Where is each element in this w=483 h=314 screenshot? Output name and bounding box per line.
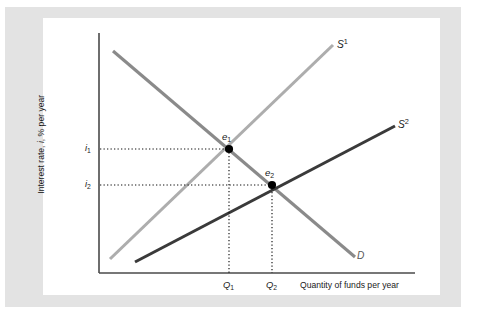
y-tick-label-i1: i1 [85,143,91,155]
x-tick-q2-subscript: 2 [273,284,277,291]
equilibrium-label-e1-subscript: 1 [227,136,231,143]
equilibrium-point-e2 [268,181,276,189]
y-axis-title-prefix: Interest rate, [36,143,46,194]
y-axis-title: Interest rate, i, % per year [37,59,46,229]
x-axis-title: Quantity of funds per year [300,281,399,290]
x-tick-q1-subscript: 1 [230,284,234,291]
equilibrium-label-e2-subscript: 2 [270,172,274,179]
curve-label-d: D [357,251,364,261]
y-tick-i2-subscript: 2 [87,183,91,190]
figure-root: Interest rate, i, % per year Quantity of… [0,0,483,314]
curve-label-s1-base: S [337,39,344,50]
equilibrium-label-e1: e1 [222,132,231,144]
x-tick-label-q1: Q1 [223,280,234,292]
equilibrium-point-e1 [225,145,233,153]
curve-label-s1: S1 [337,38,348,50]
equilibrium-label-e2: e2 [265,168,274,180]
curve-label-s2: S2 [398,118,409,130]
x-tick-label-q2: Q2 [266,280,277,292]
supply-curve-2 [135,126,395,262]
y-tick-i1-subscript: 1 [87,147,91,154]
y-axis-title-suffix: , % per year [36,95,46,141]
plot-canvas [0,0,483,314]
curve-label-s2-superscript: 2 [405,117,409,126]
y-axis-title-variable: i [36,141,46,143]
y-tick-label-i2: i2 [85,179,91,191]
curve-label-s1-superscript: 1 [344,37,348,46]
curve-label-s2-base: S [398,119,405,130]
demand-curve [113,51,355,257]
